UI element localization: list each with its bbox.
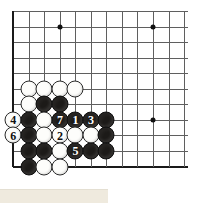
star-point [150, 117, 155, 122]
go-stone-black[interactable] [20, 127, 37, 144]
move-number-label: 5 [72, 145, 78, 157]
go-stone-black[interactable] [98, 111, 115, 128]
board-gridline-horizontal [13, 27, 188, 28]
go-stone-white[interactable] [51, 158, 68, 175]
go-stone-black-move-7[interactable]: 7 [51, 111, 68, 128]
go-stone-black[interactable] [36, 96, 53, 113]
board-gridline-vertical [122, 11, 123, 167]
board-gridline-horizontal [13, 58, 188, 59]
star-point [150, 24, 155, 29]
go-stone-white[interactable] [36, 158, 53, 175]
board-gridline-vertical [184, 11, 185, 167]
star-point [57, 24, 62, 29]
go-stone-black-move-5[interactable]: 5 [67, 142, 84, 159]
go-stone-white[interactable] [36, 111, 53, 128]
move-number-label: 1 [72, 114, 78, 126]
go-stone-black-move-1[interactable]: 1 [67, 111, 84, 128]
board-gridline-horizontal [13, 73, 188, 74]
go-stone-white[interactable] [36, 80, 53, 97]
go-stone-black[interactable] [98, 142, 115, 159]
caption-strip [0, 189, 108, 203]
go-stone-white[interactable] [67, 80, 84, 97]
go-stone-white[interactable] [20, 80, 37, 97]
go-stone-white[interactable] [20, 96, 37, 113]
board-gridline-vertical [137, 11, 138, 167]
go-stone-white-move-4[interactable]: 4 [5, 111, 22, 128]
go-stone-white[interactable] [51, 142, 68, 159]
go-stone-white[interactable] [82, 127, 99, 144]
board-gridline-vertical [153, 11, 154, 167]
go-stone-black[interactable] [20, 158, 37, 175]
go-stone-black[interactable] [82, 142, 99, 159]
go-stone-white[interactable] [36, 127, 53, 144]
go-stone-black-move-3[interactable]: 3 [82, 111, 99, 128]
go-stone-white[interactable] [51, 80, 68, 97]
board-gridline-horizontal [13, 42, 188, 43]
go-stone-white-move-2[interactable]: 2 [51, 127, 68, 144]
move-number-label: 7 [57, 114, 63, 126]
go-stone-black[interactable] [20, 111, 37, 128]
go-stone-white[interactable] [67, 127, 84, 144]
go-stone-black[interactable] [51, 96, 68, 113]
move-number-label: 3 [88, 114, 94, 126]
go-stone-black[interactable] [36, 142, 53, 159]
go-board[interactable]: 4713625 [0, 0, 198, 203]
go-stone-black[interactable] [98, 127, 115, 144]
board-gridline-vertical [169, 11, 170, 167]
move-number-label: 4 [10, 114, 16, 126]
go-diagram-page: 4713625 [0, 0, 198, 203]
go-stone-white-move-6[interactable]: 6 [5, 127, 22, 144]
board-gridline-horizontal [13, 11, 188, 12]
move-number-label: 6 [10, 129, 16, 141]
go-stone-black[interactable] [20, 142, 37, 159]
move-number-label: 2 [57, 129, 63, 141]
